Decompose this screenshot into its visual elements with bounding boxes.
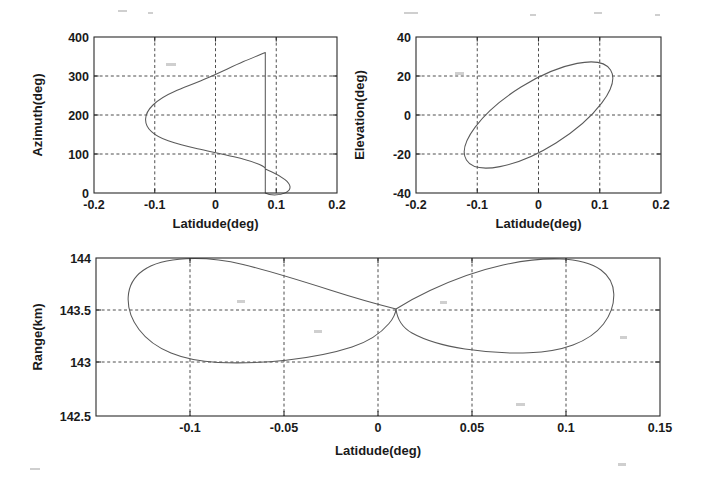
yticklabel-elevation-2: 0 <box>404 109 411 123</box>
xaxis-label-elevation: Latidude(deg) <box>496 216 582 231</box>
xticklabel-range-5: 0.15 <box>648 421 672 435</box>
yticklabel-range-2: 143.5 <box>60 304 91 318</box>
xticklabel-range-0: -0.1 <box>179 421 201 435</box>
xticklabel-azimuth-2: 0 <box>212 198 219 212</box>
xticklabel-range-2: 0 <box>375 421 382 435</box>
xticklabel-azimuth-4: 0.2 <box>328 198 345 212</box>
yticklabel-elevation-0: -40 <box>393 187 411 201</box>
yticklabel-range-1: 143 <box>70 356 91 370</box>
xticklabel-azimuth-1: -0.1 <box>144 198 166 212</box>
yaxis-label-range: Range(km) <box>30 303 45 370</box>
yticklabel-range-0: 142.5 <box>60 410 91 424</box>
xticklabel-range-4: 0.1 <box>557 421 574 435</box>
xaxis-label-range: Latidude(deg) <box>335 443 421 458</box>
yaxis-label-elevation: Elevation(deg) <box>352 70 367 160</box>
yticklabel-azimuth-1: 100 <box>68 148 89 162</box>
figure-canvas: -0.2 -0.1 0 0.1 0.2 0 100 200 300 400 La… <box>0 0 705 481</box>
yticklabel-azimuth-2: 200 <box>68 109 89 123</box>
xticklabel-range-1: -0.05 <box>270 421 299 435</box>
yaxis-label-azimuth: Azimuth(deg) <box>30 73 45 156</box>
xticklabel-range-3: 0.05 <box>460 421 484 435</box>
yticklabel-range-3: 144 <box>70 252 91 266</box>
yticklabel-azimuth-3: 300 <box>68 70 89 84</box>
yticklabel-azimuth-0: 0 <box>82 187 89 201</box>
xticklabel-elevation-1: -0.1 <box>466 198 488 212</box>
yticklabel-elevation-4: 40 <box>397 31 411 45</box>
yticklabel-elevation-3: 20 <box>397 70 411 84</box>
xticklabel-elevation-2: 0 <box>535 198 542 212</box>
xticklabel-elevation-4: 0.2 <box>652 198 669 212</box>
yticklabel-elevation-1: -20 <box>393 148 411 162</box>
xticklabel-elevation-3: 0.1 <box>591 198 608 212</box>
yticklabel-azimuth-4: 400 <box>68 31 89 45</box>
xticklabel-azimuth-3: 0.1 <box>268 198 285 212</box>
xaxis-label-azimuth: Latidude(deg) <box>173 216 259 231</box>
